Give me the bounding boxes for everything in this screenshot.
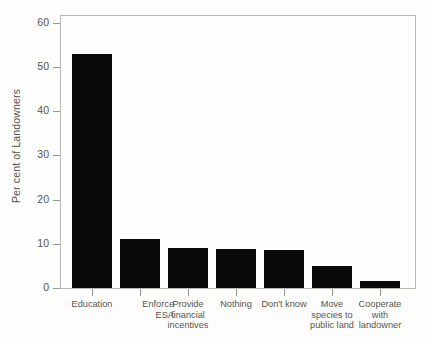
x-tick-line [380,289,381,296]
x-tick-line [236,289,237,296]
y-tick-line [53,200,60,201]
bar [120,239,160,288]
y-tick-line [53,67,60,68]
y-tick-line [53,111,60,112]
y-tick-label: 60 [37,16,49,28]
y-tick-label: 50 [37,60,49,72]
x-tick-line [332,289,333,296]
y-tick-label: 30 [37,148,49,160]
bar [72,54,112,288]
y-tick-label: 40 [37,104,49,116]
x-tick-line [188,289,189,296]
y-tick-label: 20 [37,193,49,205]
y-tick-line [53,23,60,24]
bar [264,250,304,288]
y-tick-line [53,288,60,289]
y-tick-label: 10 [37,237,49,249]
y-tick-line [53,155,60,156]
bar [360,281,400,289]
y-axis-title: Per cent of Landowners [10,56,22,236]
bar [168,248,208,288]
x-tick-line [140,289,141,296]
x-axis-label: Cooperate with landowner [346,299,414,331]
x-tick-line [92,289,93,296]
plot-area [60,15,416,289]
y-tick-label: 0 [43,281,49,293]
bar-chart-figure: Per cent of Landowners 0102030405060 Edu… [0,0,431,342]
bar [216,249,256,288]
y-tick-line [53,244,60,245]
x-tick-line [284,289,285,296]
bar [312,266,352,288]
